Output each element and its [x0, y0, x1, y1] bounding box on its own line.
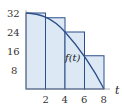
x-tick-4: 4 — [62, 94, 68, 105]
x-tick-2: 2 — [43, 94, 49, 105]
y-tick-8: 8 — [11, 65, 17, 76]
x-tick-8: 8 — [101, 94, 107, 105]
riemann-sum-chart: 32 24 16 8 2 4 6 8 t f(t) — [0, 0, 127, 109]
x-axis-label: t — [115, 84, 120, 97]
bar-0-2 — [26, 13, 46, 89]
y-tick-24: 24 — [7, 27, 20, 38]
y-tick-32: 32 — [7, 8, 20, 19]
y-tick-16: 16 — [7, 46, 20, 57]
curve-label: f(t) — [64, 52, 81, 63]
bars — [26, 13, 104, 89]
x-tick-6: 6 — [81, 94, 87, 105]
